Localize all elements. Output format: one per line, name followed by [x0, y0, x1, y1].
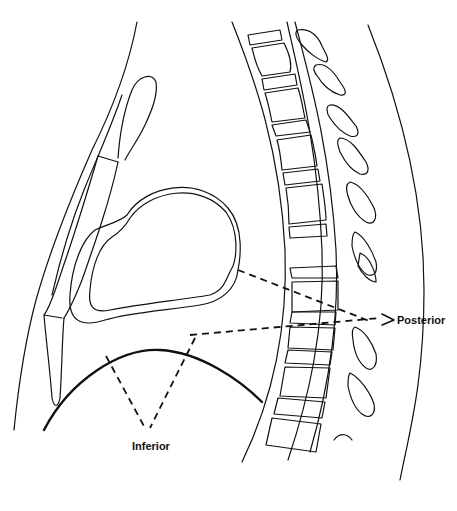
- vertebral-bodies: [248, 30, 338, 452]
- sternum-manubrium: [118, 76, 156, 160]
- posterior-pointer-lower: [190, 318, 380, 335]
- posterior-arrowhead: [382, 314, 394, 325]
- diaphragm: [44, 350, 262, 430]
- inferior-label: Inferior: [132, 440, 170, 452]
- posterior-label: Posterior: [397, 314, 445, 326]
- spinous-processes: [296, 30, 377, 440]
- xiphoid: [44, 315, 64, 406]
- sternum-body: [44, 156, 118, 318]
- heart-inner: [90, 193, 236, 311]
- anatomy-diagram: [0, 0, 457, 511]
- spine-canal-anterior: [287, 22, 322, 460]
- sternum-joint: [98, 156, 118, 162]
- inferior-pointer-left: [106, 356, 145, 428]
- back-contour: [368, 25, 424, 480]
- chest-wall-outer: [14, 22, 137, 430]
